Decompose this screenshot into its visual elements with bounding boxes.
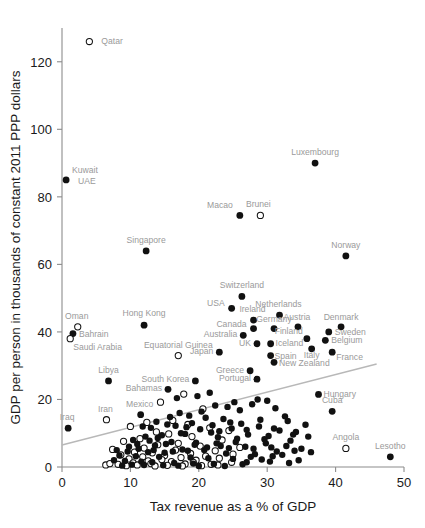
- data-point-filled: [211, 461, 217, 467]
- data-point-filled: [233, 439, 239, 445]
- data-point-spain: [267, 352, 274, 359]
- data-point-sweden: [325, 329, 332, 336]
- data-point-filled: [172, 423, 178, 429]
- data-point-iran: [103, 417, 109, 423]
- data-point-filled: [208, 429, 214, 435]
- point-label-qatar: Qatar: [101, 36, 123, 46]
- y-tick-label: 100: [30, 122, 52, 137]
- data-point-filled: [111, 457, 117, 463]
- y-tick-label: 20: [38, 392, 52, 407]
- y-tick-label: 60: [38, 257, 52, 272]
- data-point-filled: [156, 454, 162, 460]
- data-point-filled: [116, 452, 122, 458]
- data-point-luxembourg: [312, 160, 319, 167]
- point-label-iceland: Iceland: [276, 338, 304, 348]
- point-label-luxembourg: Luxembourg: [291, 147, 339, 157]
- point-label-norway: Norway: [331, 240, 361, 250]
- data-point-filled: [163, 441, 169, 447]
- data-point-filled: [196, 463, 202, 469]
- data-point-open: [137, 436, 143, 442]
- data-point-filled: [202, 414, 208, 420]
- data-point-filled: [268, 444, 274, 450]
- data-point-france: [329, 349, 336, 356]
- data-point-filled: [298, 446, 304, 452]
- data-point-filled: [216, 428, 222, 434]
- x-tick-label: 20: [192, 475, 206, 490]
- data-point-filled: [238, 421, 244, 427]
- point-label-bahrain: Bahrain: [79, 329, 109, 339]
- data-point-equatorial-guinea: [175, 352, 181, 358]
- data-point-norway: [342, 253, 349, 260]
- x-tick-label: 0: [58, 475, 65, 490]
- point-label-hong-kong: Hong Kong: [123, 308, 166, 318]
- data-point-open: [237, 444, 243, 450]
- data-point-filled: [187, 454, 193, 460]
- y-tick-label: 40: [38, 325, 52, 340]
- data-point-usa: [228, 305, 235, 312]
- data-point-filled: [245, 431, 251, 437]
- data-point-filled: [250, 446, 256, 452]
- point-label-libya: Libya: [98, 365, 119, 375]
- data-point-filled: [249, 401, 255, 407]
- data-point-filled: [243, 459, 249, 465]
- data-point-filled: [176, 410, 182, 416]
- point-label-new-zealand: New Zealand: [279, 358, 330, 368]
- data-point-filled: [190, 460, 196, 466]
- data-point-macao: [236, 212, 243, 219]
- point-label-canada: Canada: [216, 319, 246, 329]
- data-point-filled: [149, 459, 155, 465]
- point-label-oman: Oman: [65, 311, 89, 321]
- data-point-open: [153, 429, 159, 435]
- data-point-singapore: [143, 247, 150, 254]
- data-point-filled: [226, 445, 232, 451]
- data-point-filled: [185, 448, 191, 454]
- data-point-filled: [183, 424, 189, 430]
- point-label-iran: Iran: [98, 404, 113, 414]
- data-point-filled: [274, 448, 280, 454]
- data-point-qatar: [86, 38, 92, 44]
- point-label-uae: UAE: [78, 176, 96, 186]
- data-point-open: [212, 448, 218, 454]
- data-point-filled: [308, 449, 314, 455]
- data-point-libya: [105, 377, 112, 384]
- data-point-filled: [283, 443, 289, 449]
- data-point-finland: [303, 335, 310, 342]
- data-point-lesotho: [387, 453, 394, 460]
- data-point-bahamas: [165, 386, 172, 393]
- data-point-filled: [223, 450, 229, 456]
- data-point-portugal: [254, 376, 261, 383]
- x-axis-title: Tax revenue as a % of GDP: [150, 499, 317, 514]
- data-point-japan: [216, 349, 223, 356]
- data-point-filled: [164, 421, 170, 427]
- point-label-france: France: [336, 352, 363, 362]
- data-point-open: [216, 455, 222, 461]
- data-point-open: [166, 431, 172, 437]
- y-tick-label: 120: [30, 55, 52, 70]
- data-point-open: [120, 438, 126, 444]
- data-point-filled: [228, 425, 234, 431]
- point-label-bahamas: Bahamas: [126, 383, 162, 393]
- data-point-filled: [145, 449, 151, 455]
- point-label-netherlands: Netherlands: [255, 299, 301, 309]
- data-point-filled: [135, 446, 141, 452]
- data-point-filled: [126, 444, 132, 450]
- data-point-filled: [237, 407, 243, 413]
- data-point-filled: [189, 420, 195, 426]
- data-point-iraq: [65, 425, 72, 432]
- point-label-switzerland: Switzerland: [220, 280, 265, 290]
- data-point-filled: [212, 402, 218, 408]
- point-label-belgium: Belgium: [331, 335, 362, 345]
- data-point-filled: [295, 457, 301, 463]
- data-point-filled: [265, 433, 271, 439]
- data-point-open: [189, 434, 195, 440]
- data-point-filled: [150, 447, 156, 453]
- data-point-filled: [194, 393, 200, 399]
- data-point-filled: [175, 462, 181, 468]
- plot-svg: 01020304050020406080100120 QatarKuwaitUA…: [0, 0, 425, 528]
- point-label-mexico: Mexico: [126, 399, 153, 409]
- data-point-open: [181, 391, 187, 397]
- point-label-portugal: Portugal: [219, 373, 251, 383]
- data-point-filled: [153, 419, 159, 425]
- data-point-filled: [290, 431, 296, 437]
- data-point-filled: [259, 456, 265, 462]
